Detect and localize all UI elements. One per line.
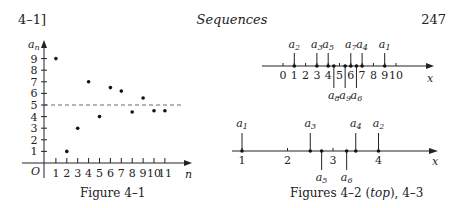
y-axis-label: an [28,38,40,52]
svg-text:7: 7 [118,167,125,180]
svg-text:2: 2 [63,167,70,180]
svg-text:1: 1 [239,154,246,167]
svg-text:5: 5 [96,167,103,180]
point-label: a6 [341,171,353,185]
svg-text:11: 11 [158,167,172,180]
svg-text:2: 2 [302,69,309,82]
svg-text:6: 6 [107,167,114,180]
figure-4-1-caption: Figure 4–1 [80,186,146,200]
data-point [120,89,124,93]
svg-text:4: 4 [31,111,38,124]
point-label: a6 [351,89,363,103]
svg-text:6: 6 [31,87,38,100]
point-label: a3 [304,117,316,131]
svg-text:1: 1 [291,69,298,82]
fig43-x-label: x [432,155,439,168]
point-label: a9 [339,89,351,103]
svg-text:0: 0 [280,69,287,82]
data-point [54,57,58,61]
fig42-x-label: x [427,72,434,85]
data-point [163,109,167,113]
svg-text:5: 5 [336,69,343,82]
data-point [65,150,69,154]
svg-text:9: 9 [381,69,388,82]
svg-text:1: 1 [52,167,59,180]
svg-text:9: 9 [31,53,38,66]
svg-text:9: 9 [140,167,147,180]
point-label: a1 [236,117,248,131]
svg-text:4: 4 [325,69,332,82]
x-axis-label: n [185,168,192,181]
point-label: a5 [316,171,328,185]
point-label: a1 [379,38,391,52]
data-point [76,126,80,130]
svg-text:7: 7 [359,69,366,82]
point-label: a4 [356,38,368,52]
svg-text:3: 3 [74,167,81,180]
svg-text:8: 8 [370,69,377,82]
svg-text:2: 2 [284,154,291,167]
svg-text:1: 1 [31,145,38,158]
svg-text:3: 3 [330,154,337,167]
svg-text:3: 3 [313,69,320,82]
point-label: a4 [350,117,362,131]
svg-text:4: 4 [85,167,92,180]
data-point [98,115,102,119]
data-point [141,96,145,100]
origin-label: O [31,165,40,178]
point-label: a3 [311,38,323,52]
svg-text:8: 8 [31,64,38,77]
svg-text:8: 8 [129,167,136,180]
svg-text:7: 7 [31,76,38,89]
data-point [87,80,91,84]
figures-4-2-4-3-caption: Figures 4–2 (top), 4–3 [290,186,423,200]
point-label: a2 [288,38,300,52]
point-label: a2 [373,117,385,131]
data-point [109,86,113,90]
svg-text:2: 2 [31,134,38,147]
point-label: a5 [322,38,334,52]
data-point [152,109,156,113]
data-point [130,110,134,114]
svg-text:10: 10 [389,69,403,82]
figure-4-1: an n O 1234567891234567891011 x 01234567… [0,0,464,208]
point-label: a8 [328,89,340,103]
svg-text:4: 4 [375,154,382,167]
svg-text:3: 3 [31,122,38,135]
svg-text:5: 5 [31,99,38,112]
svg-text:6: 6 [347,69,354,82]
